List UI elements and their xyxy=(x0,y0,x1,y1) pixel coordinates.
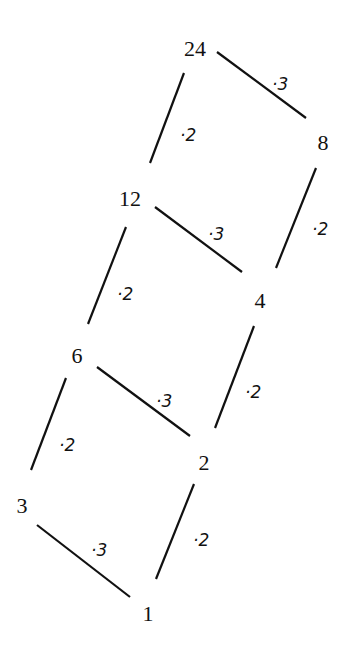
node-1: 1 xyxy=(143,601,154,626)
edge-label-12-4: ·3 xyxy=(208,224,224,244)
edge-24-8 xyxy=(217,52,306,118)
edge-8-4 xyxy=(276,168,316,268)
edge-label-6-2: ·3 xyxy=(156,391,172,411)
lattice-diagram: ·3 ·2 ·2 ·3 ·2 ·2 ·3 ·2 ·2 ·3 24 8 12 4 … xyxy=(0,0,349,656)
edge-label-24-12: ·2 xyxy=(180,125,196,145)
edge-label-4-2: ·2 xyxy=(245,382,261,402)
edge-label-3-1: ·3 xyxy=(91,540,107,560)
edge-3-1 xyxy=(37,525,130,597)
node-24: 24 xyxy=(184,36,206,61)
edge-label-2-1: ·2 xyxy=(193,530,209,550)
edge-12-4 xyxy=(155,207,242,272)
edge-2-1 xyxy=(156,484,194,579)
edge-4-2 xyxy=(215,326,254,428)
edge-12-6 xyxy=(88,227,126,324)
node-12: 12 xyxy=(119,186,141,211)
node-4: 4 xyxy=(255,288,266,313)
node-2: 2 xyxy=(199,450,210,475)
edge-6-3 xyxy=(31,378,66,470)
node-8: 8 xyxy=(318,130,329,155)
edge-24-12 xyxy=(150,73,184,163)
edge-label-6-3: ·2 xyxy=(59,435,75,455)
node-3: 3 xyxy=(17,493,28,518)
edge-label-24-8: ·3 xyxy=(272,74,288,94)
edge-6-2 xyxy=(97,367,190,436)
node-6: 6 xyxy=(72,343,83,368)
edge-label-12-6: ·2 xyxy=(117,284,133,304)
edge-label-8-4: ·2 xyxy=(312,219,328,239)
